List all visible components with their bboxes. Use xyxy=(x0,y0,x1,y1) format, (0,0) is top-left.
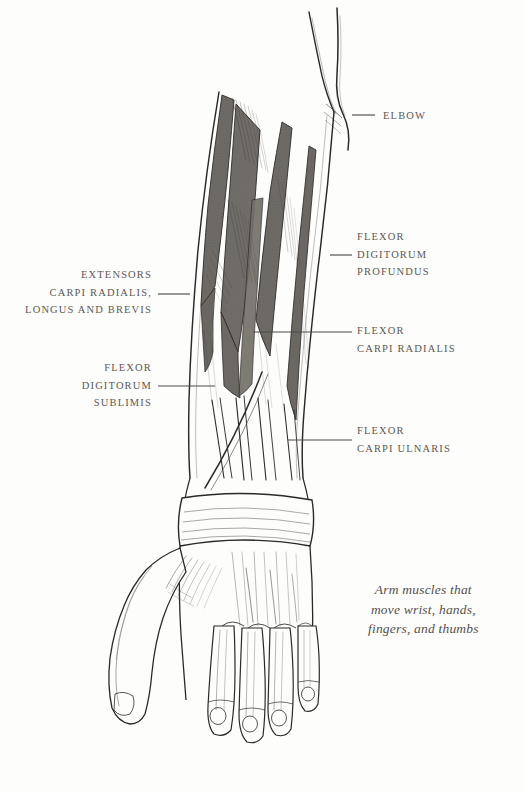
plate-caption: Arm muscles thatmove wrist, hands,finger… xyxy=(368,580,479,639)
label-line: DIGITORUM xyxy=(0,377,152,395)
finger-little xyxy=(298,626,319,711)
label-elbow: ELBOW xyxy=(383,107,426,125)
label-line: PROFUNDUS xyxy=(357,263,430,281)
label-line: FLEXOR xyxy=(0,359,152,377)
label-line: FLEXOR xyxy=(357,322,456,340)
label-line: CARPI RADIALIS xyxy=(357,340,456,358)
label-flexor-carpi-ulnaris: FLEXORCARPI ULNARIS xyxy=(357,422,451,457)
label-line: CARPI RADIALIS, xyxy=(0,284,152,302)
label-line: SUBLIMIS xyxy=(0,394,152,412)
anatomical-plate: ELBOWFLEXORDIGITORUMPROFUNDUSFLEXORCARPI… xyxy=(0,0,523,791)
muscle-bellies xyxy=(201,95,316,420)
wrist-retinaculum xyxy=(178,493,313,546)
label-line: CARPI ULNARIS xyxy=(357,440,451,458)
caption-line: move wrist, hands, xyxy=(368,600,479,620)
label-flexor-digitorum-sublimis: FLEXORDIGITORUMSUBLIMIS xyxy=(0,359,152,412)
label-line: DIGITORUM xyxy=(357,246,430,264)
muscle-flexor-carpi-ulnaris xyxy=(287,146,316,420)
caption-line: Arm muscles that xyxy=(368,580,479,600)
label-line: EXTENSORS xyxy=(0,266,152,284)
label-line: LONGUS AND BREVIS xyxy=(0,301,152,319)
label-line: FLEXOR xyxy=(357,422,451,440)
upper-arm-outline xyxy=(309,8,349,150)
label-line: ELBOW xyxy=(383,107,426,125)
finger-index xyxy=(208,626,235,735)
wrist-tendons xyxy=(205,372,300,490)
label-line: FLEXOR xyxy=(357,228,430,246)
label-extensors-carpi-radialis-longus-and-brevis: EXTENSORSCARPI RADIALIS,LONGUS AND BREVI… xyxy=(0,266,152,319)
label-flexor-carpi-radialis: FLEXORCARPI RADIALIS xyxy=(357,322,456,357)
caption-line: fingers, and thumbs xyxy=(368,619,479,639)
hand xyxy=(109,546,319,743)
palm-hatching xyxy=(232,552,299,626)
thumb xyxy=(109,548,186,724)
label-flexor-digitorum-profundus: FLEXORDIGITORUMPROFUNDUS xyxy=(357,228,430,281)
